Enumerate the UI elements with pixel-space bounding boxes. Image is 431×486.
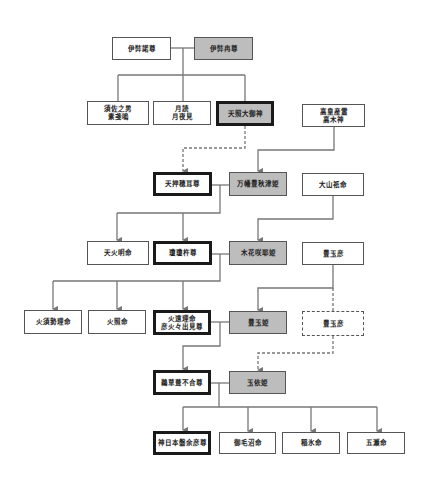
node-izanagi: 伊弉諾尊 — [112, 37, 171, 60]
connector — [258, 127, 334, 171]
node-label: 火遠理命 彦火々出見尊 — [161, 315, 203, 331]
node-takamimusubi: 高皇産霊 高木神 — [302, 104, 365, 127]
node-label: 玉依姫 — [247, 379, 268, 387]
node-label: 豊玉彦 — [323, 250, 344, 258]
connector-lines — [0, 0, 431, 486]
node-label: 天押穂耳尊 — [165, 180, 200, 188]
node-oyamatsumi: 大山祇命 — [302, 173, 364, 196]
node-izanami: 伊弉冉尊 — [194, 37, 253, 60]
node-label: 伊弉冉尊 — [210, 45, 238, 53]
node-label: 伊弉諾尊 — [128, 45, 156, 53]
node-oshihomimi: 天押穂耳尊 — [153, 172, 212, 196]
node-label: 天照大御神 — [228, 110, 263, 118]
node-yorozuhata: 万幡豊秋津姫 — [229, 172, 287, 196]
dashed-connector — [183, 126, 245, 171]
dashed-connector — [258, 336, 333, 370]
node-amaterasu: 天照大御神 — [216, 101, 274, 126]
node-label: 万幡豊秋津姫 — [237, 180, 279, 188]
node-toyotamahiko1: 豊玉彦 — [302, 242, 364, 265]
node-tsukuyomi: 月読 月夜見 — [153, 101, 211, 125]
node-label: 五瀬命 — [366, 439, 387, 447]
node-label: 高皇産霊 高木神 — [320, 108, 348, 124]
node-label: 稲氷命 — [301, 439, 322, 447]
node-jimmu: 神日本磐余彦尊 — [153, 431, 211, 455]
node-honoakari: 天火明命 — [87, 241, 149, 265]
connector — [258, 265, 333, 310]
node-ninigi: 瓊瓊杵尊 — [153, 241, 212, 265]
node-label: 火照命 — [107, 318, 128, 326]
node-label: 月読 月夜見 — [172, 105, 193, 121]
node-itsuse: 五瀬命 — [347, 432, 405, 454]
node-label: 豊玉彦 — [323, 320, 344, 328]
node-label: 豊玉姫 — [248, 319, 269, 327]
node-hoderi: 火照命 — [88, 310, 146, 334]
node-hoori: 火遠理命 彦火々出見尊 — [153, 310, 211, 335]
node-toyotamahime: 豊玉姫 — [229, 311, 287, 334]
node-label: 神日本磐余彦尊 — [158, 439, 207, 447]
node-konohanasakuya: 木花咲耶姫 — [229, 241, 287, 265]
node-inahi: 稲氷命 — [282, 432, 340, 454]
node-label: 大山祇命 — [319, 181, 347, 189]
connector — [258, 196, 333, 240]
node-toyotamahiko2: 豊玉彦 — [302, 311, 364, 336]
node-label: 木花咲耶姫 — [241, 249, 276, 257]
node-label: 御毛沼命 — [234, 439, 262, 447]
node-tamayorihime: 玉依姫 — [229, 371, 286, 394]
node-label: 須佐之男 素戔嗚 — [104, 105, 132, 121]
node-label: 鵜草葺不合尊 — [161, 379, 203, 387]
genealogy-diagram: 伊弉諾尊伊弉冉尊須佐之男 素戔嗚月読 月夜見天照大御神高皇産霊 高木神天押穂耳尊… — [0, 0, 431, 486]
node-mikenu: 御毛沼命 — [219, 432, 276, 454]
node-ugayafukiaezu: 鵜草葺不合尊 — [153, 370, 211, 395]
node-label: 瓊瓊杵尊 — [169, 249, 197, 257]
node-label: 天火明命 — [104, 249, 132, 257]
node-hosuseri: 火須勢理命 — [24, 310, 82, 334]
node-susanoo: 須佐之男 素戔嗚 — [87, 101, 149, 125]
node-label: 火須勢理命 — [36, 318, 71, 326]
